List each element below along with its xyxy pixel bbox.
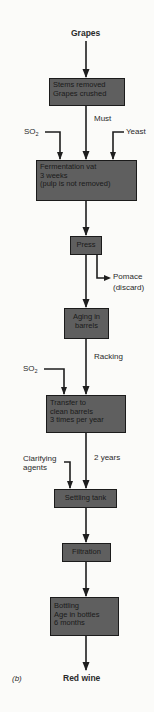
step-press-box: Press <box>70 236 102 255</box>
step-press-line-1: Press <box>74 241 98 250</box>
side-input-so2-transfer: SO2 <box>23 364 38 373</box>
clarifying-line-1: Clarifying <box>23 454 56 463</box>
step-settling-line-1: Settling tank <box>58 494 113 503</box>
flowchart-diagram: Grapes Stems removed Grapes crushed Must… <box>0 0 154 712</box>
arrow-pomace <box>97 254 109 278</box>
panel-label: (b) <box>12 674 22 683</box>
arrow-so2-transfer <box>44 369 64 394</box>
side-output-pomace: Pomace (discard) <box>113 272 144 292</box>
step-bottling-line-3: 6 months <box>54 619 115 628</box>
step-aging-line-2: barrels <box>68 322 105 331</box>
so2-base: SO <box>23 364 35 373</box>
pomace-line-2: (discard) <box>113 283 144 292</box>
output-red-wine-label: Red wine <box>63 674 100 683</box>
arrow-so2-ferment <box>45 132 60 159</box>
edge-label-racking: Racking <box>94 352 123 361</box>
step-crush-box: Stems removed Grapes crushed <box>49 78 125 106</box>
input-grapes-label: Grapes <box>71 29 100 38</box>
edge-label-must: Must <box>94 114 111 123</box>
so2-subscript: 2 <box>36 131 39 137</box>
step-transfer-line-3: 3 times per year <box>50 416 122 425</box>
step-crush-line-2: Grapes crushed <box>53 90 121 99</box>
step-bottling-box: Bottling Age in bottles 6 months <box>50 597 119 636</box>
so2-base: SO <box>24 127 36 136</box>
side-input-clarifying-agents: Clarifying agents <box>23 454 56 472</box>
side-input-yeast: Yeast <box>126 127 146 136</box>
edge-label-two-years: 2 years <box>94 453 120 462</box>
step-filtration-line-1: Filtration <box>66 548 107 557</box>
step-ferment-box: Fermentation vat 3 weeks (pulp is not re… <box>36 160 137 201</box>
side-input-so2-ferment: SO2 <box>24 127 39 136</box>
step-aging-box: Aging in barrels <box>64 308 109 339</box>
step-ferment-line-3: (pulp is not removed) <box>40 180 133 189</box>
pomace-line-1: Pomace <box>113 272 144 281</box>
step-transfer-box: Transfer to clean barrels 3 times per ye… <box>46 395 126 433</box>
step-filtration-box: Filtration <box>62 543 111 562</box>
step-settling-box: Settling tank <box>54 489 117 508</box>
clarifying-line-2: agents <box>23 463 56 472</box>
so2-subscript: 2 <box>35 368 38 374</box>
